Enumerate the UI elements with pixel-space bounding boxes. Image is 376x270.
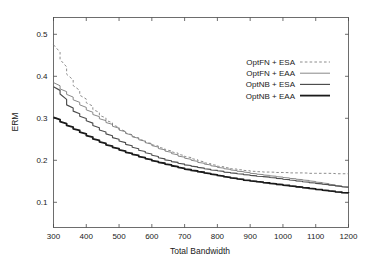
y-tick-label: 0.5 bbox=[36, 30, 48, 39]
x-tick-label: 500 bbox=[112, 232, 126, 241]
x-axis-title: Total Bandwidth bbox=[170, 246, 230, 256]
y-tick-label: 0.4 bbox=[36, 72, 48, 81]
y-axis-title: ERM bbox=[10, 113, 20, 132]
y-tick-label: 0.3 bbox=[36, 114, 48, 123]
x-tick-label: 1000 bbox=[274, 232, 292, 241]
x-tick-label: 300 bbox=[47, 232, 61, 241]
legend-label-2: OptNB + ESA bbox=[246, 80, 296, 89]
chart-figure: 300400500600700800900100011001200 0.10.2… bbox=[0, 0, 376, 270]
legend-label-0: OptFN + ESA bbox=[246, 58, 295, 67]
legend-label-1: OptFN + EAA bbox=[246, 69, 295, 78]
x-tick-label: 700 bbox=[178, 232, 192, 241]
x-tick-label: 600 bbox=[145, 232, 159, 241]
figure-background bbox=[0, 0, 376, 270]
y-tick-label: 0.2 bbox=[36, 156, 48, 165]
erm-bandwidth-line-chart: 300400500600700800900100011001200 0.10.2… bbox=[0, 0, 376, 270]
y-tick-label: 0.1 bbox=[36, 198, 48, 207]
x-tick-label: 1100 bbox=[307, 232, 325, 241]
x-tick-label: 900 bbox=[243, 232, 257, 241]
x-tick-label: 400 bbox=[80, 232, 94, 241]
legend-label-3: OptNB + EAA bbox=[246, 92, 296, 101]
x-tick-label: 800 bbox=[211, 232, 225, 241]
x-tick-label: 1200 bbox=[340, 232, 358, 241]
